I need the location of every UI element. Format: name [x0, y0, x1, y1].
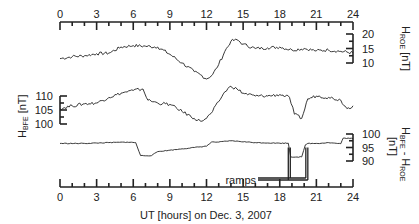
top-tick-label: 6 [130, 8, 136, 20]
top-tick-label: 24 [347, 8, 359, 20]
diff-y-axis: 1009590 [346, 128, 380, 167]
bottom-tick-label: 24 [347, 191, 359, 203]
bottom-tick-label: 9 [167, 191, 173, 203]
top-tick-label: 0 [57, 8, 63, 20]
hbfe-y-axis: 110105100 [35, 90, 67, 130]
y-tick-label: 90 [362, 155, 374, 167]
bottom-tick-label: 21 [310, 191, 322, 203]
top-tick-label: 18 [274, 8, 286, 20]
bottom-tick-label: 3 [94, 191, 100, 203]
top-tick-label: 3 [94, 8, 100, 20]
ramps-label: ramps [225, 174, 256, 186]
y-tick-label: 100 [362, 128, 380, 140]
top-tick-label: 9 [167, 8, 173, 20]
diff-trace [60, 138, 353, 157]
x-axis-title: UT [hours] on Dec. 3, 2007 [140, 209, 272, 221]
bottom-tick-label: 18 [274, 191, 286, 203]
bottom-tick-label: 12 [200, 191, 212, 203]
bottom-tick-label: 15 [237, 191, 249, 203]
y-tick-label: 15 [362, 43, 374, 55]
y-tick-label: 100 [35, 118, 53, 130]
hroe-y-axis: 201510 [346, 28, 374, 69]
hroe-trace [60, 39, 353, 79]
bottom-x-axis: 03691215182124 [57, 179, 359, 203]
hbfe-axis-title: HBFE [nT] [16, 94, 29, 138]
hroe-axis-title: HROE [nT] [399, 26, 412, 71]
bottom-tick-label: 0 [57, 191, 63, 203]
ramps-annotation: ramps [225, 148, 307, 187]
hbfe-trace [60, 86, 353, 121]
y-tick-label: 10 [362, 57, 374, 69]
top-tick-label: 21 [310, 8, 322, 20]
ramps-bracket [258, 148, 308, 181]
diff-axis-title: HBFE - HROE [399, 127, 412, 182]
top-tick-label: 12 [200, 8, 212, 20]
y-tick-label: 110 [35, 90, 53, 102]
y-tick-label: 20 [362, 28, 374, 40]
top-tick-label: 15 [237, 8, 249, 20]
top-x-axis: 03691215182124 [57, 8, 359, 30]
diff-axis-unit: [nT] [387, 137, 399, 156]
y-tick-label: 95 [362, 142, 374, 154]
bottom-tick-label: 6 [130, 191, 136, 203]
y-tick-label: 105 [35, 104, 53, 116]
magnetometer-chart: 03691215182124 03691215182124 201510 HRO… [0, 0, 419, 224]
